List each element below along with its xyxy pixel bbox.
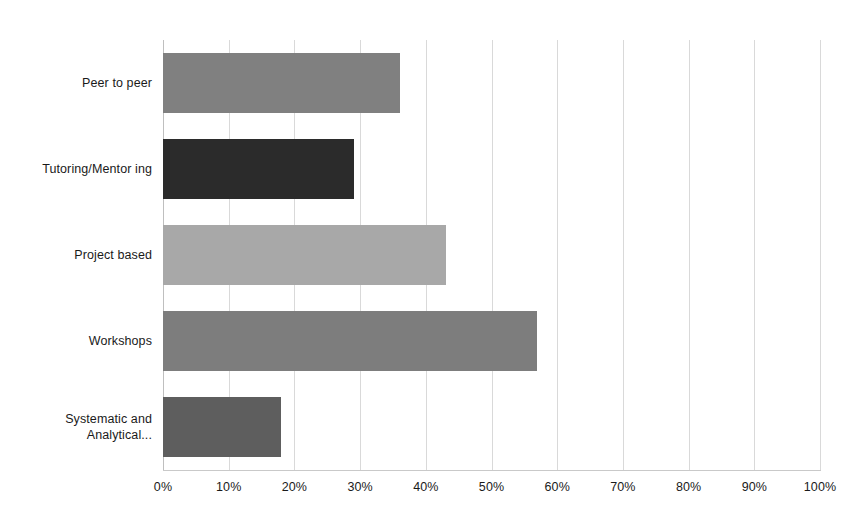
x-axis-tick-label: 60% — [545, 478, 570, 496]
y-axis-category-label: Tutoring/Mentor ing — [0, 161, 152, 177]
bar-chart: Peer to peerTutoring/Mentor ingProject b… — [0, 0, 854, 531]
x-axis-tick-label: 90% — [742, 478, 767, 496]
y-axis-category-label: Project based — [0, 247, 152, 263]
bar[interactable] — [163, 53, 400, 113]
plot-area — [163, 40, 820, 470]
bar[interactable] — [163, 311, 537, 371]
x-axis-tick-label: 10% — [216, 478, 241, 496]
x-axis-tick-label: 30% — [347, 478, 372, 496]
bar[interactable] — [163, 139, 354, 199]
bar-row — [163, 53, 820, 113]
x-axis-tick-label: 70% — [610, 478, 635, 496]
bar-row — [163, 397, 820, 457]
bar[interactable] — [163, 225, 446, 285]
bar-row — [163, 139, 820, 199]
x-axis-tick-label: 50% — [479, 478, 504, 496]
y-axis-category-label: Systematic and Analytical... — [0, 411, 152, 443]
x-axis-tick-label: 20% — [282, 478, 307, 496]
bar[interactable] — [163, 397, 281, 457]
bar-row — [163, 311, 820, 371]
gridline-100% — [820, 40, 821, 470]
y-axis-category-label: Peer to peer — [0, 75, 152, 91]
bars-layer — [163, 40, 820, 470]
y-axis-category-label: Workshops — [0, 333, 152, 349]
bar-row — [163, 225, 820, 285]
x-axis-tick-label: 100% — [804, 478, 836, 496]
x-axis-tick-label: 0% — [154, 478, 172, 496]
x-axis-tick-label: 40% — [413, 478, 438, 496]
x-axis-labels: 0%10%20%30%40%50%60%70%80%90%100% — [0, 478, 854, 502]
x-axis-tick-label: 80% — [676, 478, 701, 496]
x-axis-baseline — [163, 470, 821, 471]
y-axis-labels: Peer to peerTutoring/Mentor ingProject b… — [0, 40, 152, 470]
